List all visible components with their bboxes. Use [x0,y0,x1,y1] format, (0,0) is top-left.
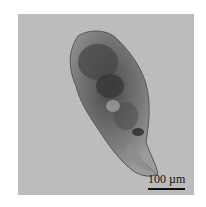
micrograph-panel: 100 µm [18,14,194,195]
scale-bar-label: 100 µm [148,172,185,187]
specimen-image [18,14,194,195]
scale-bar [148,188,185,190]
